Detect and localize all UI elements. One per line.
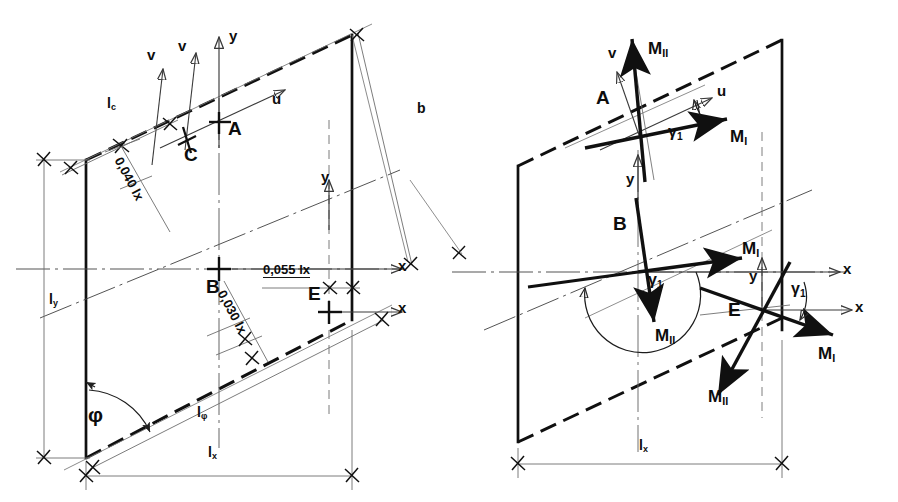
left-point-E-marker: [318, 301, 342, 324]
right-moment-label-A-MII: MII: [648, 40, 668, 59]
left-dim-lc-sub: c: [111, 102, 116, 112]
left-dim-label-b: b: [417, 101, 426, 115]
technical-drawing-svg: [0, 0, 898, 502]
right-point-B-axis-negative: [528, 272, 638, 287]
right-gamma-A-sub: 1: [677, 131, 683, 142]
left-point-label-A: A: [228, 119, 242, 138]
right-moment-E-MI-base: M: [818, 344, 832, 363]
right-moment-E-MI-sub: I: [832, 352, 835, 364]
left-angle-label-phi: φ: [88, 404, 103, 425]
right-moment-label-E-MII: MII: [708, 388, 728, 407]
right-axis-label-x-E: x: [855, 299, 863, 314]
left-point-A-axes: [152, 37, 285, 165]
right-point-label-A: A: [596, 88, 610, 107]
right-angle-gamma-B: [585, 272, 701, 353]
right-moment-B-MI-base: M: [742, 239, 756, 258]
right-angle-label-gamma-E: γ1: [791, 281, 806, 299]
right-moment-label-B-MII: MII: [655, 327, 675, 346]
right-point-label-B: B: [613, 214, 627, 233]
left-dim-ly-sub: y: [53, 298, 58, 308]
left-axis-label-v-inner: v: [178, 38, 186, 53]
right-moment-B-MI-sub: I: [756, 247, 759, 259]
left-dim-label-lphi: lφ: [197, 405, 207, 421]
right-gamma-A-base: γ: [668, 123, 677, 140]
right-diagram-group: [410, 39, 852, 478]
right-point-label-E: E: [728, 300, 741, 319]
left-dim-lphi-sub: φ: [201, 411, 207, 421]
right-point-B-moment-MI: [638, 258, 742, 272]
right-axis-label-x-B: x: [843, 261, 851, 276]
right-point-A-moment-MI: [585, 119, 727, 148]
left-dim-lx-sub: x: [212, 451, 217, 461]
right-moment-A-MI-base: M: [730, 127, 744, 146]
right-moment-label-E-MI: MI: [818, 345, 835, 364]
right-moment-B-MII-base: M: [655, 326, 669, 345]
right-angle-gamma-A: [694, 100, 700, 116]
right-construction-lines: [565, 85, 772, 318]
right-axis-label-y-E: y: [749, 268, 757, 283]
right-moment-E-MII-base: M: [708, 387, 722, 406]
right-dim-lx-sub: x: [643, 444, 648, 454]
left-dim-lx-ticks: [79, 468, 359, 482]
right-left-connector-tick: [452, 246, 466, 259]
left-point-label-E: E: [308, 284, 321, 303]
right-gamma-B-sub: 1: [657, 279, 663, 290]
right-point-A-axes: [600, 60, 712, 212]
right-point-E-moment-MI: [700, 288, 833, 335]
left-axis-label-x-right: x: [398, 300, 406, 315]
left-dim-label-ly: ly: [49, 292, 58, 308]
right-angle-label-gamma-B: γ1: [648, 272, 663, 290]
left-axis-label-x-mid: x: [398, 258, 406, 273]
left-offset-label-055: 0,055 lx: [263, 263, 310, 278]
right-moment-A-MII-base: M: [648, 39, 662, 58]
right-dim-lx-ticks: [511, 456, 789, 470]
right-gamma-E-base: γ: [791, 280, 800, 297]
left-axis-label-v-outer: v: [147, 47, 155, 62]
left-axis-label-y-top: y: [229, 28, 237, 43]
right-moment-A-MII-sub: II: [662, 47, 668, 59]
left-dim-lphi-ticks: [86, 312, 389, 474]
right-point-B-moment-MII: [636, 198, 654, 322]
left-point-label-C: C: [184, 145, 198, 164]
right-moment-label-B-MI: MI: [742, 240, 759, 259]
right-angle-label-gamma-A: γ1: [668, 124, 683, 142]
right-dim-lx: [518, 340, 782, 478]
right-axis-label-u: u: [717, 83, 726, 98]
left-diagram-group: [16, 24, 418, 490]
right-centre-lines: [452, 190, 846, 330]
left-axis-label-u: u: [272, 91, 281, 106]
right-left-connector-line: [410, 180, 462, 254]
right-moment-E-MII-sub: II: [722, 395, 728, 407]
left-axis-label-y-right: y: [321, 169, 329, 184]
right-slab-top-edge: [518, 40, 782, 166]
right-gamma-E-sub: 1: [800, 288, 806, 299]
left-dim-b-base: b: [417, 100, 426, 116]
right-slab-bottom-edge: [518, 318, 782, 442]
right-axis-label-y-A: y: [626, 171, 634, 186]
left-dim-label-lc: lc: [107, 96, 116, 112]
right-dim-label-lx: lx: [639, 438, 648, 454]
right-moment-B-MII-sub: II: [669, 334, 675, 346]
right-moment-A-MI-sub: I: [744, 135, 747, 147]
right-moment-label-A-MI: MI: [730, 128, 747, 147]
figure-canvas: v v y u x y x A C B E lc b ly lφ lx 0,04…: [0, 0, 898, 502]
left-point-E-axes: [329, 180, 402, 312]
left-dim-b-ticks: [350, 28, 418, 270]
left-dim-label-lx: lx: [208, 445, 217, 461]
left-offset-030-ticks: [238, 332, 259, 365]
left-dim-lphi: [92, 320, 384, 468]
right-axis-label-v: v: [608, 45, 616, 60]
left-dim-b: [358, 33, 412, 265]
right-gamma-B-base: γ: [648, 271, 657, 288]
